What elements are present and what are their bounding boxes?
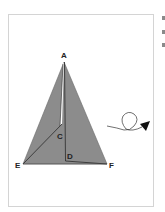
geometry-diagram: A C D E F [0, 0, 165, 212]
label-a: A [61, 51, 67, 60]
label-e: E [15, 161, 21, 170]
label-f: F [109, 161, 114, 170]
label-d: D [67, 152, 73, 161]
rotation-arrow-icon [107, 112, 150, 131]
label-c: C [57, 132, 63, 141]
